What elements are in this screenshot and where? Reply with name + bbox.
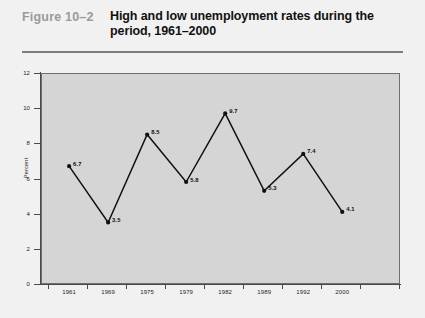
y-tick-label: 0 <box>0 281 30 287</box>
figure-title: High and low unemployment rates during t… <box>110 9 407 39</box>
y-tick-label: 10 <box>0 105 30 111</box>
data-point-label: 7.4 <box>307 148 315 154</box>
header-divider <box>22 51 403 53</box>
y-tick-mark <box>34 108 40 109</box>
y-tick-label: 6 <box>0 175 30 181</box>
x-axis-line <box>40 284 401 285</box>
x-tick-label: 1992 <box>283 289 323 295</box>
x-tick-label: 1969 <box>88 289 128 295</box>
plot-area <box>41 73 400 284</box>
data-point-label: 6.7 <box>73 161 81 167</box>
y-tick-label: 12 <box>0 70 30 76</box>
y-tick-label: 2 <box>0 245 30 251</box>
y-tick-label: 8 <box>0 140 30 146</box>
x-tick-label: 1975 <box>127 289 167 295</box>
data-point-label: 4.1 <box>346 206 354 212</box>
data-point-label: 3.5 <box>112 217 120 223</box>
x-tick-mark <box>399 285 400 289</box>
y-tick-mark <box>34 214 40 215</box>
y-tick-mark <box>34 179 40 180</box>
x-tick-label: 1961 <box>49 289 89 295</box>
x-tick-label: 1982 <box>205 289 245 295</box>
plot-background <box>42 74 399 283</box>
x-tick-label: 1979 <box>166 289 206 295</box>
data-point-label: 8.5 <box>151 129 159 135</box>
data-point-label: 5.3 <box>268 185 276 191</box>
x-tick-label: 2000 <box>322 289 362 295</box>
y-tick-mark <box>34 284 40 285</box>
data-point-label: 5.8 <box>190 177 198 183</box>
y-axis-line <box>40 72 41 285</box>
data-point-label: 9.7 <box>229 108 237 114</box>
y-tick-mark <box>34 249 40 250</box>
figure-number: Figure 10–2 <box>22 9 110 24</box>
x-tick-label: 1989 <box>244 289 284 295</box>
y-tick-label: 4 <box>0 210 30 216</box>
y-tick-mark <box>34 143 40 144</box>
y-tick-mark <box>34 73 40 74</box>
figure-page: Figure 10–2 High and low unemployment ra… <box>0 0 425 318</box>
figure-header: Figure 10–2 High and low unemployment ra… <box>22 9 407 39</box>
